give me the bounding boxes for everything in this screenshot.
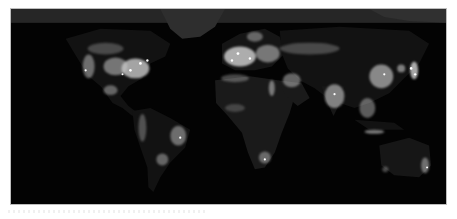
light-dot [129,69,132,72]
lights-scandinavia [247,32,263,42]
lights-middle-east [283,73,301,87]
lights-australia-southwest [382,166,388,172]
lights-china-east [369,64,393,88]
world-night-lights-map [10,8,447,205]
lights-brazil-coast [170,126,186,146]
lights-nile [269,80,275,96]
light-dot [383,73,385,75]
lights-us-west [83,55,95,79]
indonesia-land [354,120,404,130]
lights-argentina [156,154,168,166]
light-dot [179,137,181,139]
light-dot [121,73,123,75]
lights-southeast-asia [359,98,375,118]
lights-canada [88,43,124,55]
light-dot [426,166,428,168]
light-dot [85,69,87,71]
lights-west-africa [225,104,245,112]
lights-india [325,84,345,108]
lights-russia [280,43,340,55]
lights-japan [410,61,418,79]
light-dot [139,62,142,65]
lights-korea [397,64,405,72]
lights-north-africa [221,74,249,82]
lights-australia-east [421,157,429,173]
greenland [160,9,225,39]
lights-us-central [104,58,128,76]
light-dot [333,93,335,95]
central-america-land [106,93,137,116]
light-dot [237,52,240,55]
light-dot [231,59,233,61]
africa-land [215,76,295,169]
caption [8,210,208,213]
light-dot [249,57,251,59]
lights-mexico [104,85,118,95]
light-dot [146,59,148,61]
lights-europe-west [224,47,256,67]
lights-europe-east [256,45,280,63]
lights-java [364,130,384,134]
map-canvas [11,9,446,204]
lights-south-africa [259,152,271,164]
light-dot [414,73,416,75]
lights-south-america-west [138,114,146,142]
light-dot [264,158,266,160]
light-dot [410,67,413,70]
